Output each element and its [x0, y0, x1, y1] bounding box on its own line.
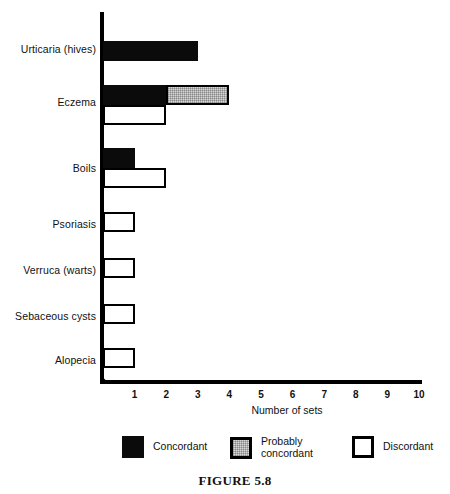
category-label: Psoriasis: [53, 219, 97, 230]
bar-concordant: [103, 41, 198, 61]
x-tick-label: 3: [188, 389, 208, 400]
bar-discordant: [103, 348, 135, 368]
legend-label: Concordant: [153, 441, 207, 453]
category-label: Eczema: [57, 97, 96, 108]
figure-caption-text: FIGURE 5.8: [198, 473, 271, 488]
x-tick-label: 9: [377, 389, 397, 400]
legend-swatch-discordant: [352, 436, 374, 458]
x-axis-title: Number of sets: [0, 404, 450, 416]
x-tick-label: 4: [219, 389, 239, 400]
y-axis-line: [100, 12, 104, 384]
legend-item: Concordant: [122, 436, 207, 458]
figure-caption: FIGURE 5.8: [0, 473, 450, 489]
bar-concordant: [103, 148, 135, 168]
bar-discordant: [103, 105, 166, 125]
legend-swatch-probable: [230, 437, 252, 459]
bar-discordant: [103, 168, 166, 188]
bar-discordant: [103, 258, 135, 278]
legend-item: Probably concordant: [230, 436, 313, 459]
category-label: Verruca (warts): [23, 265, 96, 276]
bar-concordant: [103, 85, 166, 105]
bar-discordant: [103, 212, 135, 232]
x-tick-label: 5: [251, 389, 271, 400]
figure-5-8: Urticaria (hives)EczemaBoilsPsoriasisVer…: [0, 0, 450, 494]
legend-label: Probably concordant: [261, 436, 313, 459]
category-label: Boils: [73, 163, 96, 174]
chart-legend: ConcordantProbably concordantDiscordant: [0, 436, 450, 466]
category-label: Alopecia: [55, 355, 96, 366]
chart-plot-area: Urticaria (hives)EczemaBoilsPsoriasisVer…: [0, 0, 450, 400]
category-label: Urticaria (hives): [21, 44, 96, 55]
bar-probable: [166, 85, 229, 105]
legend-swatch-concordant: [122, 436, 144, 458]
legend-label: Discordant: [383, 441, 433, 453]
legend-item: Discordant: [352, 436, 433, 458]
bar-discordant: [103, 304, 135, 324]
x-tick-label: 2: [156, 389, 176, 400]
x-tick-label: 10: [409, 389, 429, 400]
x-axis-line: [100, 380, 422, 384]
x-tick-label: 6: [283, 389, 303, 400]
x-tick-label: 8: [346, 389, 366, 400]
x-tick-label: 7: [314, 389, 334, 400]
x-axis-title-text: Number of sets: [251, 404, 322, 416]
category-label: Sebaceous cysts: [15, 311, 96, 322]
x-tick-label: 1: [125, 389, 145, 400]
